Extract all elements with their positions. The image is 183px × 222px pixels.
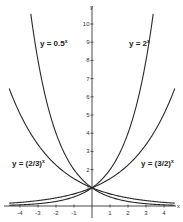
- x-tick-label: -2: [53, 210, 59, 216]
- axes: x y: [4, 4, 180, 218]
- label-two-pow-x: y = 2x: [129, 38, 150, 48]
- y-tick-label: 9: [86, 39, 90, 45]
- y-tick-label: 7: [86, 76, 90, 82]
- y-tick-label: 6: [86, 94, 90, 100]
- y-axis-label: y: [90, 4, 93, 10]
- label-two-thirds-pow-x: y = (2/3)x: [12, 158, 45, 168]
- x-tick-label: -4: [17, 210, 23, 216]
- x-tick-label: -1: [71, 210, 77, 216]
- y-tick-label: 3: [86, 148, 90, 154]
- label-half-pow-x: y = 0.5x: [40, 38, 68, 48]
- y-tick-label: 10: [83, 21, 90, 27]
- x-tick-label: 3: [144, 210, 148, 216]
- exponential-functions-chart: x y -4-3-2-11234 12345678910 y = 0.5x y …: [0, 0, 183, 222]
- y-tick-label: 5: [86, 112, 90, 118]
- label-three-halves-pow-x: y = (3/2)x: [141, 158, 174, 168]
- y-tick-label: 8: [86, 57, 90, 63]
- x-tick-label: 2: [126, 210, 130, 216]
- x-axis-label: x: [177, 203, 180, 209]
- x-tick-label: -3: [35, 210, 41, 216]
- x-tick-label: 1: [108, 210, 112, 216]
- y-tick-label: 4: [86, 130, 90, 136]
- y-tick-label: 2: [86, 167, 90, 173]
- x-tick-label: 4: [162, 210, 166, 216]
